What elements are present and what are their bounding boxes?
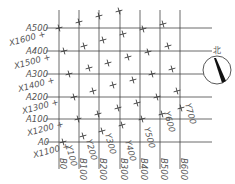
b-label: B100 [78,158,88,180]
cross-mark [85,64,94,73]
cross-mark [99,36,108,45]
cross-mark [89,87,98,96]
b-label: B500 [159,158,169,180]
b-label: B300 [119,158,129,180]
cross-mark [118,121,127,130]
y-label: Y700 [183,102,198,125]
cross-mark [80,42,89,51]
cross-mark [109,81,118,90]
survey-grid-diagram: A500A400A300A200A100A0 X1600 +X1500 +X14… [0,0,235,184]
b-label: B600 [179,158,189,180]
b-label: B400 [139,158,149,180]
y-label: Y500 [142,126,157,149]
cross-mark [164,42,173,51]
b-label: B200 [98,158,108,180]
north-arrow-icon: 北 [203,46,231,84]
cross-mark [129,76,138,85]
cross-mark [168,65,177,74]
b-label: B0 [58,158,68,169]
north-label: 北 [213,46,221,55]
cross-mark [94,110,103,119]
cross-mark [104,59,113,68]
cross-mark [114,104,123,113]
y-label: Y300 [103,132,118,155]
y-label: Y600 [162,110,177,133]
cross-mark [124,53,133,62]
cross-mark [144,48,153,57]
cross-mark [115,7,124,16]
